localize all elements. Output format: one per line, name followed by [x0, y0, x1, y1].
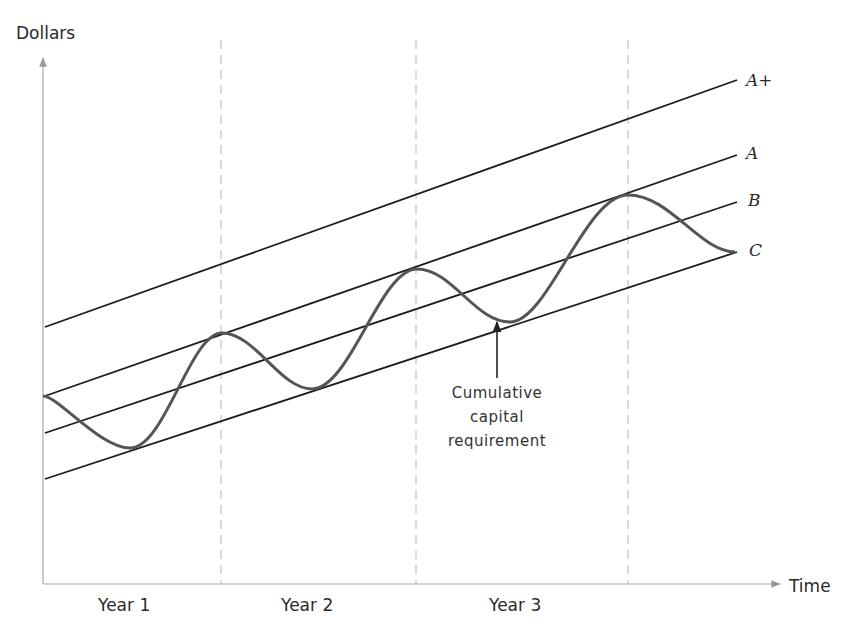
cumulative-capital-curve [43, 195, 735, 448]
annotation-line-3: requirement [432, 429, 562, 453]
year-3-label: Year 3 [489, 595, 541, 615]
line-b [45, 202, 737, 433]
line-a-plus [45, 80, 737, 327]
line-a [45, 155, 737, 396]
financing-lines [45, 80, 737, 479]
capital-requirement-chart [0, 0, 847, 630]
annotation-line-2: capital [432, 405, 562, 429]
annotation-text: Cumulative capital requirement [432, 381, 562, 453]
annotation-line-1: Cumulative [432, 381, 562, 405]
year-1-label: Year 1 [98, 595, 150, 615]
line-label-c: C [749, 240, 762, 260]
line-label-a-plus: A+ [746, 70, 773, 90]
line-label-a: A [746, 143, 758, 163]
y-axis-label: Dollars [16, 23, 75, 43]
x-axis-label: Time [789, 576, 831, 596]
line-label-b: B [748, 190, 761, 210]
year-dividers [221, 40, 628, 584]
year-2-label: Year 2 [281, 595, 333, 615]
